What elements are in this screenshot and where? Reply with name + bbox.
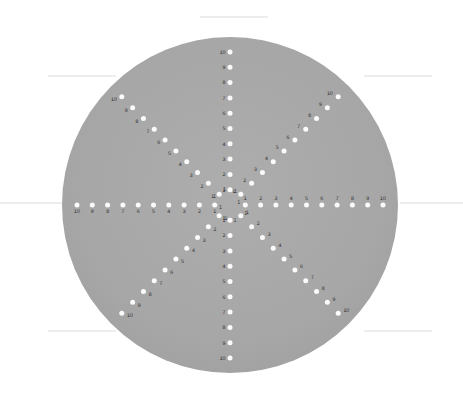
tick-label: 9 <box>223 341 226 347</box>
tick-label: 8 <box>136 119 139 125</box>
tick-dot <box>289 203 294 208</box>
tick-dot <box>228 356 233 361</box>
tick-dot <box>212 203 217 208</box>
tick-label: 10 <box>74 209 80 215</box>
center-ring-label: 1 <box>219 205 222 210</box>
tick-dot <box>228 264 233 269</box>
tick-dot <box>271 246 276 251</box>
tick-dot <box>166 203 171 208</box>
tick-label: 3 <box>223 157 226 163</box>
tick-label: 10 <box>220 50 226 56</box>
tick-label: 7 <box>159 281 162 287</box>
tick-label: 8 <box>351 196 354 202</box>
tick-label: 9 <box>125 108 128 114</box>
tick-dot <box>228 340 233 345</box>
tick-dot <box>350 203 355 208</box>
tick-dot <box>228 141 233 146</box>
tick-label: 9 <box>91 209 94 215</box>
tick-dot <box>184 159 189 164</box>
tick-dot <box>75 203 80 208</box>
tick-dot <box>325 105 330 110</box>
tick-dot <box>282 148 287 153</box>
tick-label: 8 <box>223 325 226 331</box>
tick-label: 3 <box>254 167 257 173</box>
tick-dot <box>336 311 341 316</box>
tick-label: 9 <box>319 102 322 108</box>
tick-label: 5 <box>289 254 292 260</box>
tick-dot <box>319 203 324 208</box>
tick-dot <box>228 218 233 223</box>
tick-dot <box>228 111 233 116</box>
tick-label: 4 <box>290 196 293 202</box>
tick-label: 10 <box>111 97 117 103</box>
tick-label: 7 <box>223 96 226 102</box>
tick-label: 2 <box>198 209 201 215</box>
tick-dot <box>182 203 187 208</box>
tick-dot <box>228 279 233 284</box>
tick-label: 6 <box>223 111 226 117</box>
tick-label: 10 <box>220 356 226 362</box>
tick-dot <box>195 235 200 240</box>
tick-dot <box>217 192 222 197</box>
tick-label: 4 <box>167 209 170 215</box>
tick-dot <box>173 148 178 153</box>
tick-label: 2 <box>214 227 217 233</box>
tick-dot <box>130 300 135 305</box>
tick-dot <box>228 126 233 131</box>
tick-dot <box>141 116 146 121</box>
tick-dot <box>314 116 319 121</box>
tick-dot <box>381 203 386 208</box>
center-ring-label: 1 <box>244 211 247 216</box>
tick-label: 4 <box>223 142 226 148</box>
tick-dot <box>141 289 146 294</box>
tick-dot <box>130 105 135 110</box>
tick-label: 7 <box>121 209 124 215</box>
tick-label: 7 <box>336 196 339 202</box>
tick-dot <box>249 181 254 186</box>
tick-label: 7 <box>146 129 149 135</box>
tick-label: 7 <box>223 310 226 316</box>
tick-dot <box>228 172 233 177</box>
tick-label: 9 <box>366 196 369 202</box>
tick-label: 10 <box>343 308 349 314</box>
tick-label: 1 <box>213 209 216 215</box>
tick-label: 3 <box>183 209 186 215</box>
tick-dot <box>119 94 124 99</box>
tick-label: 5 <box>223 279 226 285</box>
tick-label: 10 <box>127 313 133 319</box>
tick-dot <box>271 159 276 164</box>
tick-dot <box>228 80 233 85</box>
tick-dot <box>228 157 233 162</box>
tick-dot <box>206 181 211 186</box>
tick-dot <box>184 246 189 251</box>
tick-label: 6 <box>320 196 323 202</box>
center-ring-label: 1 <box>223 187 226 192</box>
tick-label: 5 <box>181 259 184 265</box>
tick-dot <box>292 138 297 143</box>
center-ring-label: 1 <box>238 200 241 205</box>
tick-label: 4 <box>265 156 268 162</box>
tick-dot <box>258 203 263 208</box>
tick-dot <box>119 311 124 316</box>
tick-label: 6 <box>137 209 140 215</box>
tick-dot <box>105 203 110 208</box>
tick-label: 2 <box>200 184 203 190</box>
tick-dot <box>173 257 178 262</box>
tick-dot <box>90 203 95 208</box>
tick-label: 6 <box>300 264 303 270</box>
center-ring-label: 1 <box>234 189 237 194</box>
tick-label: 9 <box>333 297 336 303</box>
tick-dot <box>152 127 157 132</box>
tick-dot <box>314 289 319 294</box>
tick-dot <box>304 203 309 208</box>
tick-dot <box>163 267 168 272</box>
tick-label: 5 <box>305 196 308 202</box>
tick-dot <box>282 257 287 262</box>
tick-dot <box>336 94 341 99</box>
tick-dot <box>365 203 370 208</box>
tick-label: 3 <box>223 249 226 255</box>
tick-dot <box>238 192 243 197</box>
tick-label: 4 <box>223 264 226 270</box>
tick-label: 8 <box>106 209 109 215</box>
tick-dot <box>152 278 157 283</box>
